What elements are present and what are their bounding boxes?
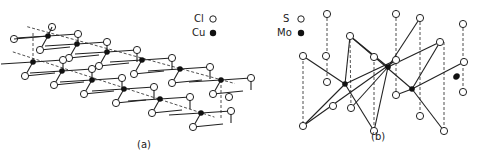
- cl-atom: [103, 38, 110, 45]
- cu-cl-bond: [48, 34, 78, 36]
- s-atom: [323, 10, 330, 17]
- cu-cl-bond: [25, 73, 55, 76]
- s-atom: [459, 20, 466, 27]
- cl-atom: [59, 56, 66, 63]
- cu-atom: [139, 57, 145, 63]
- s-atom: [299, 122, 306, 129]
- cl-atom: [21, 72, 28, 79]
- cu-cl-bond: [160, 97, 190, 99]
- s-atom: [392, 91, 399, 98]
- mo-atom: [453, 74, 459, 80]
- cu-cl-bond: [99, 63, 129, 66]
- s-atom: [299, 52, 306, 59]
- s-s-dashed-line: [350, 40, 351, 108]
- cu-atom: [104, 49, 110, 55]
- mo-s-bond: [345, 36, 350, 84]
- cu-cl-bond: [45, 44, 77, 46]
- cu-cl-bond: [75, 52, 107, 54]
- s-atom: [329, 102, 336, 109]
- cu-cl-bond: [77, 42, 107, 44]
- cl-atom: [133, 46, 140, 53]
- cl-atom: [189, 123, 196, 130]
- cu-cl-bond: [152, 110, 182, 113]
- s-atom: [370, 53, 377, 60]
- mo-atom: [409, 86, 415, 92]
- s-atom: [416, 112, 423, 119]
- cu-cl-bond: [40, 47, 70, 50]
- cu-cl-bond: [124, 87, 154, 89]
- cu-cl-bond: [193, 124, 223, 127]
- cu-cl-bond: [30, 71, 62, 73]
- cl-atom: [118, 74, 125, 81]
- cu-cl-bond: [107, 50, 137, 52]
- cu-atom: [45, 33, 51, 39]
- s-atom: [459, 88, 466, 95]
- cl-atom: [36, 46, 43, 53]
- cu-cl-bond: [142, 58, 172, 60]
- cu-atom: [89, 77, 95, 83]
- mo-s-bond: [303, 84, 345, 126]
- cu-cl-bond: [180, 67, 210, 69]
- legend-cl-label: Cl: [194, 13, 204, 24]
- cl-atom: [168, 54, 175, 61]
- s-atom: [460, 58, 467, 65]
- cu-atom: [74, 41, 80, 47]
- cl-atom: [95, 62, 102, 69]
- panel-a-cucl2-chains: [1, 23, 255, 130]
- mo-atom: [385, 64, 391, 70]
- cu-cl-bond: [92, 89, 124, 91]
- cu-cl-bond: [33, 60, 63, 62]
- legend-s-open-circle-icon: [298, 16, 304, 22]
- cl-atom: [206, 63, 213, 70]
- cu-cl-bond: [148, 69, 180, 71]
- cl-atom: [168, 79, 175, 86]
- cu-cl-bond: [69, 55, 99, 58]
- cu-atom: [157, 96, 163, 102]
- mo-s-bond: [412, 89, 444, 131]
- legend-mo-filled-circle-icon: [298, 30, 304, 36]
- cu-cl-bond: [1, 62, 33, 64]
- s-atom: [440, 127, 447, 134]
- legend-cu-filled-circle-icon: [210, 30, 216, 36]
- cl-atom: [80, 90, 87, 97]
- cl-atom: [225, 93, 232, 100]
- legend-panel-b: S Mo: [277, 13, 304, 38]
- cl-atom: [50, 81, 57, 88]
- cu-cl-bond: [60, 80, 92, 82]
- cl-atom: [209, 90, 216, 97]
- panel-b-mos2-layer: [299, 10, 467, 134]
- cu-atom: [121, 86, 127, 92]
- cu-cl-bond: [221, 78, 251, 80]
- cl-atom: [227, 107, 234, 114]
- mo-s-bond: [374, 67, 388, 131]
- s-atom: [416, 14, 423, 21]
- s-atom: [346, 32, 353, 39]
- cu-atom: [30, 59, 36, 65]
- mo-s-bond: [345, 60, 396, 84]
- cu-atom: [59, 68, 65, 74]
- legend-cu-label: Cu: [192, 27, 205, 38]
- legend-panel-a: Cl Cu: [192, 13, 216, 38]
- cu-cl-bond: [201, 111, 231, 113]
- crystal-structure-figure: Cl Cu S Mo (a) (b): [0, 0, 482, 155]
- s-atom: [392, 56, 399, 63]
- cu-atom: [218, 77, 224, 83]
- cl-atom: [130, 70, 137, 77]
- cl-atom: [148, 109, 155, 116]
- cl-atom: [74, 30, 81, 37]
- cl-atom: [88, 65, 95, 72]
- cu-cl-bond: [54, 82, 84, 85]
- cl-atom: [112, 99, 119, 106]
- legend-mo-label: Mo: [277, 27, 292, 38]
- s-atom: [323, 78, 330, 85]
- legend-s-label: S: [283, 13, 289, 24]
- s-atom: [322, 52, 329, 59]
- s-atom: [436, 38, 443, 45]
- mo-atom: [342, 81, 348, 87]
- cu-atom: [177, 66, 183, 72]
- panel-a-label: (a): [137, 139, 151, 150]
- legend-cl-open-circle-icon: [210, 16, 216, 22]
- cu-cl-bond: [84, 91, 114, 94]
- cl-atom: [186, 93, 193, 100]
- cu-cl-bond: [169, 113, 201, 115]
